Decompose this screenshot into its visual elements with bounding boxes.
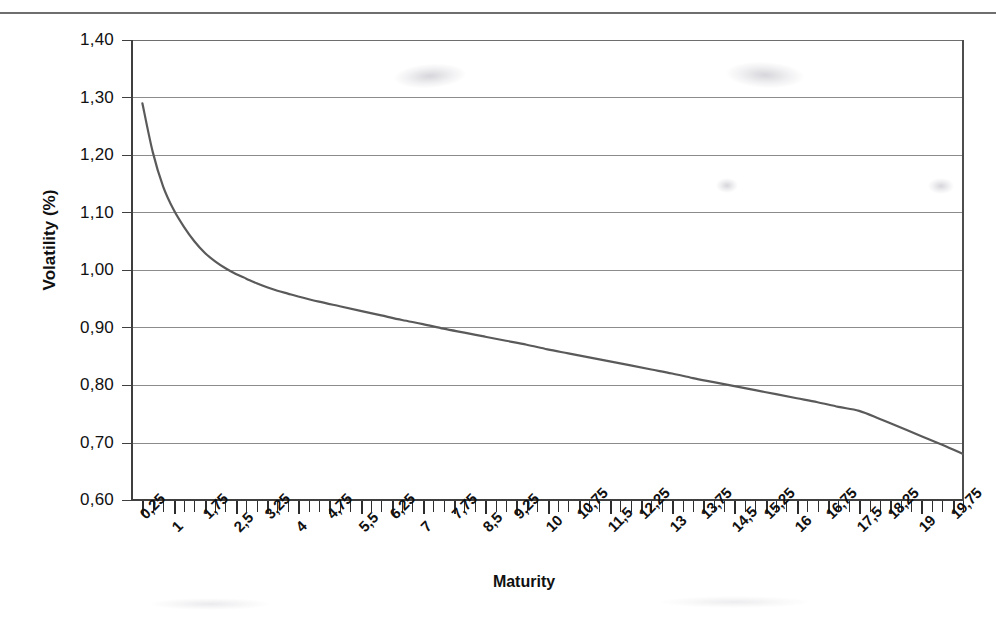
- x-axis-tick-mark: [548, 501, 550, 514]
- gridline: [132, 443, 963, 444]
- gridline: [132, 385, 963, 386]
- x-axis-tick-mark: [257, 501, 258, 512]
- x-axis-tick-label: 16,75: [822, 484, 860, 522]
- gridline: [132, 270, 963, 271]
- x-axis-tick-label: 8,5: [479, 509, 505, 535]
- x-axis-title: Maturity: [0, 573, 996, 591]
- x-axis-tick-mark: [423, 501, 425, 514]
- x-axis-tick-mark: [361, 501, 363, 514]
- x-axis-tick-mark: [568, 501, 569, 512]
- x-axis-tick-mark: [194, 501, 195, 512]
- x-axis-tick-mark: [932, 501, 933, 512]
- x-axis-tick-mark: [236, 501, 238, 514]
- gridline: [132, 212, 963, 213]
- x-axis-tick-mark: [298, 501, 300, 514]
- x-axis-tick-label: 19: [915, 511, 939, 535]
- x-axis-tick-label: 15,25: [760, 484, 798, 522]
- x-axis-tick-label: 3,25: [261, 490, 293, 522]
- x-axis-tick-label: 9,25: [510, 490, 542, 522]
- x-axis-tick-mark: [433, 501, 434, 512]
- x-axis-title-text: Maturity: [441, 573, 555, 591]
- y-axis-tick-label: 0,80: [50, 375, 114, 395]
- x-axis-tick-mark: [496, 501, 497, 512]
- x-axis-tick-label: 7: [417, 517, 435, 535]
- x-axis-tick-mark: [444, 501, 445, 512]
- x-axis-tick-label: 4,75: [323, 490, 355, 522]
- y-axis-tick-label: 1,00: [50, 260, 114, 280]
- y-axis-tick-label: 1,30: [50, 88, 114, 108]
- plot-area-top-border: [132, 40, 963, 41]
- x-axis-tick-label: 1,75: [199, 490, 231, 522]
- x-axis-tick-mark: [683, 501, 684, 512]
- x-axis-tick-mark: [693, 501, 694, 512]
- x-axis-tick-label: 1: [168, 517, 186, 535]
- data-series-curve: [0, 0, 996, 622]
- x-axis-tick-label: 4: [292, 517, 310, 535]
- x-axis-tick-label: 18,25: [884, 484, 922, 522]
- x-axis-tick-mark: [381, 501, 382, 512]
- y-axis-tick-label: 0,60: [50, 490, 114, 510]
- x-axis-tick-mark: [797, 501, 799, 514]
- x-axis-tick-label: 5,5: [355, 509, 381, 535]
- x-axis-tick-mark: [184, 501, 185, 512]
- plot-area-right-border: [962, 40, 964, 501]
- x-axis-tick-mark: [818, 501, 819, 512]
- x-axis-tick-label: 10: [542, 511, 566, 535]
- x-axis-tick-mark: [921, 501, 923, 514]
- y-axis-tick-label: 0,90: [50, 318, 114, 338]
- x-axis-tick-mark: [734, 501, 736, 514]
- x-axis-tick-label: 13: [666, 511, 690, 535]
- y-axis-tick-label: 1,20: [50, 145, 114, 165]
- x-axis-tick-mark: [309, 501, 310, 512]
- gridline: [132, 155, 963, 156]
- volatility-term-structure-chart: Volatility (%) 1,401,301,201,101,000,900…: [0, 0, 996, 622]
- x-axis-tick-mark: [942, 501, 943, 512]
- gridline: [132, 327, 963, 328]
- x-axis-tick-mark: [506, 501, 507, 512]
- x-axis-tick-label: 10,75: [573, 484, 611, 522]
- x-axis-tick-label: 0,25: [136, 490, 168, 522]
- y-axis-tick-label: 1,40: [50, 30, 114, 50]
- x-axis-tick-label: 7,75: [448, 490, 480, 522]
- y-axis-line: [131, 40, 133, 501]
- y-axis-tick-label: 1,10: [50, 203, 114, 223]
- x-axis-tick-mark: [485, 501, 487, 514]
- x-axis-tick-mark: [558, 501, 559, 512]
- x-axis-tick-label: 12,25: [635, 484, 673, 522]
- y-axis-title-container: Volatility (%): [22, 0, 48, 622]
- x-axis-tick-mark: [672, 501, 674, 514]
- x-axis-tick-label: 19,75: [947, 484, 985, 522]
- gridline: [132, 97, 963, 98]
- x-axis-tick-mark: [807, 501, 808, 512]
- x-axis-tick-mark: [610, 501, 612, 514]
- x-axis-tick-label: 16: [791, 511, 815, 535]
- x-axis-tick-mark: [859, 501, 861, 514]
- y-axis-tick-labels: 1,401,301,201,101,000,900,800,700,60: [48, 0, 114, 622]
- x-axis-tick-mark: [174, 501, 176, 514]
- y-axis-tick-label: 0,70: [50, 433, 114, 453]
- x-axis-tick-label: 2,5: [230, 509, 256, 535]
- x-axis-tick-label: 6,25: [386, 490, 418, 522]
- x-axis-tick-mark: [319, 501, 320, 512]
- x-axis-tick-label: 13,75: [697, 484, 735, 522]
